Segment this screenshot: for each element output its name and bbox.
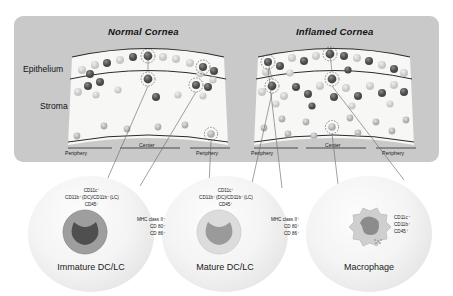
immature-activation-markers: MHC class II⁻ CD 80⁻ CD 86⁻ (104, 216, 166, 237)
cell-illustrations (0, 0, 453, 296)
figure-root: Normal Cornea Inflamed Cornea Epithelium… (0, 0, 453, 296)
macrophage-caption: Macrophage (306, 262, 432, 272)
immature-surface-markers: CD11c⁺ CD11b⁺(DC)/CD11b⁻(LC) CD45⁺ (40, 187, 144, 208)
macrophage-cell (349, 208, 391, 246)
immature-dc-caption: Immature DC/LC (28, 262, 154, 272)
mature-activation-markers: MHC class II⁺ CD 80⁺ CD 86⁺ (238, 216, 300, 237)
mature-surface-markers: CD11c⁺ CD11b⁺(DC)/CD11b⁻(LC) CD45⁺ (174, 187, 278, 208)
macrophage-surface-markers: CD11c⁻ CD11b⁺ CD45⁺ (394, 214, 411, 235)
mature-dc-cell (197, 210, 241, 254)
mature-dc-caption: Mature DC/LC (162, 262, 288, 272)
immature-dc-cell (63, 210, 107, 254)
